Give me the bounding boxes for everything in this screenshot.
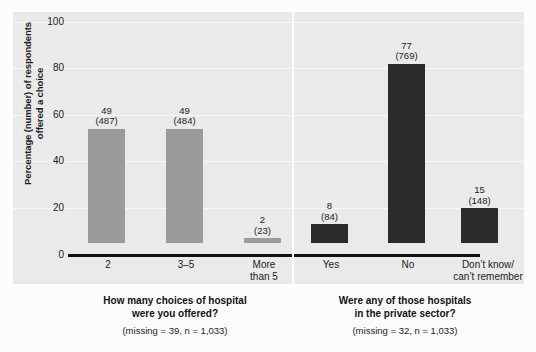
bar-more-than-5-choices[interactable]: 2 (23) (244, 238, 281, 243)
x-tick-line1: More (253, 259, 276, 270)
x-tick-line1: 3–5 (178, 259, 195, 270)
caption-private-sector: Were any of those hospitals in the priva… (292, 295, 518, 337)
bar-count: (769) (395, 50, 417, 61)
bar-label-private-no: 77 (769) (395, 41, 417, 62)
bar-label-private-yes: 8 (84) (321, 201, 338, 222)
bar-label-2-choices: 49 (487) (95, 106, 117, 127)
x-tick-line1: 2 (105, 259, 111, 270)
x-tick-private-yes: Yes (291, 259, 371, 271)
bar-label-3-to-5-choices: 49 (484) (173, 106, 195, 127)
bar-value: 15 (474, 184, 485, 195)
bar-private-dont-know[interactable]: 15 (148) (461, 208, 498, 243)
caption-question-line1: How many choices of hospital (103, 295, 246, 306)
bar-count: (148) (468, 195, 490, 206)
x-tick-line1: Yes (323, 259, 339, 270)
y-tick-60: 60 (28, 110, 64, 120)
y-tick-100: 100 (28, 17, 64, 27)
bar-chart-figure: Percentage (number) of respondents offer… (0, 0, 536, 352)
x-axis-line (68, 254, 480, 257)
bar-value: 77 (401, 40, 412, 51)
caption-question: Were any of those hospitals in the priva… (292, 295, 518, 320)
caption-choices-of-hospital: How many choices of hospital were you of… (62, 295, 288, 337)
bar-count: (84) (321, 211, 338, 222)
x-tick-3-to-5-choices: 3–5 (146, 259, 226, 271)
y-tick-80: 80 (28, 63, 64, 73)
bar-count: (484) (173, 115, 195, 126)
x-tick-private-dont-know: Don’t know/ can’t remember (413, 259, 536, 282)
x-tick-line2: can’t remember (453, 271, 522, 282)
caption-question: How many choices of hospital were you of… (62, 295, 288, 320)
bar-3-to-5-choices[interactable]: 49 (484) (166, 129, 203, 243)
bar-value: 8 (327, 200, 332, 211)
bar-value: 49 (179, 105, 190, 116)
bar-private-no[interactable]: 77 (769) (388, 64, 425, 243)
bar-value: 2 (260, 214, 265, 225)
caption-question-line1: Were any of those hospitals (339, 295, 472, 306)
x-tick-2-choices: 2 (68, 259, 148, 271)
caption-note: (missing = 39, n = 1,033) (62, 325, 288, 337)
bar-label-private-dont-know: 15 (148) (468, 185, 490, 206)
group-separator (292, 12, 294, 284)
bar-count: (23) (254, 225, 271, 236)
y-tick-20: 20 (28, 203, 64, 213)
bar-private-yes[interactable]: 8 (84) (311, 224, 348, 243)
bar-count: (487) (95, 115, 117, 126)
y-tick-40: 40 (28, 156, 64, 166)
y-tick-0: 0 (28, 250, 64, 260)
bars-area: 49 (487) 49 (484) 2 (23) 8 (84) 77 (68, 10, 480, 243)
bar-2-choices[interactable]: 49 (487) (88, 129, 125, 243)
x-tick-line1: Don’t know/ (462, 259, 514, 270)
caption-question-line2: were you offered? (132, 308, 218, 319)
y-axis-ticks: 100 80 60 40 20 0 (22, 0, 64, 272)
caption-note: (missing = 32, n = 1,033) (292, 325, 518, 337)
bar-value: 49 (101, 105, 112, 116)
bar-label-more-than-5-choices: 2 (23) (254, 215, 271, 236)
caption-question-line2: in the private sector? (354, 308, 455, 319)
x-tick-line2: than 5 (250, 271, 278, 282)
